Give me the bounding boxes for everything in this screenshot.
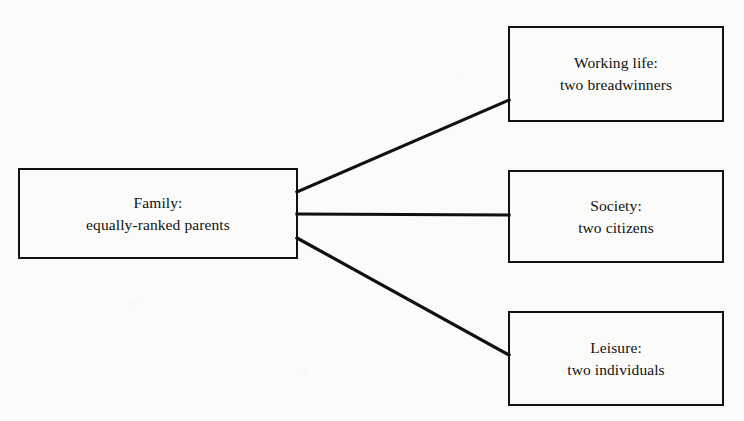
node-working-life: Working life: two breadwinners — [508, 26, 724, 122]
connector-family-to-leisure — [297, 238, 509, 355]
node-family: Family: equally-ranked parents — [18, 168, 298, 259]
node-working-life-label-line2: two breadwinners — [560, 74, 672, 96]
node-family-label-line2: equally-ranked parents — [86, 214, 230, 236]
node-society-label-line2: two citizens — [578, 217, 654, 239]
node-leisure-label-line2: two individuals — [567, 359, 665, 381]
node-working-life-label-line1: Working life: — [574, 52, 658, 74]
node-leisure-label-line1: Leisure: — [590, 337, 642, 359]
connector-family-to-working-life — [297, 100, 509, 192]
diagram-root: Family: equally-ranked parents Working l… — [0, 0, 744, 421]
node-family-label-line1: Family: — [134, 192, 183, 214]
node-society-label-line1: Society: — [590, 195, 642, 217]
node-society: Society: two citizens — [508, 170, 724, 263]
connector-family-to-society — [297, 214, 509, 215]
node-leisure: Leisure: two individuals — [508, 311, 724, 406]
